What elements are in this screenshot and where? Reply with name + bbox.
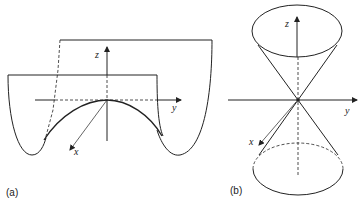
back-plane-hidden-edge [45, 40, 60, 140]
origin-point [296, 98, 300, 102]
x-axis-label-b: x [248, 136, 254, 147]
panel-a [8, 40, 212, 155]
panel-b [228, 5, 357, 195]
front-plane-left-curve [8, 75, 46, 155]
x-axis-b [259, 102, 296, 145]
bottom-ellipse-back [253, 143, 343, 169]
figure: z y x (a) z y x (b) [0, 0, 364, 203]
caption-b: (b) [230, 185, 242, 196]
x-axis [70, 100, 107, 150]
z-axis-label-a: z [94, 49, 99, 60]
caption-a: (a) [6, 187, 18, 198]
saddle-curve [44, 100, 162, 140]
front-plane-right-edge [157, 75, 163, 136]
y-axis-label-b: y [344, 105, 350, 116]
y-axis-label-a: y [171, 102, 177, 113]
x-axis-label-a: x [73, 146, 79, 157]
back-plane-right-curve [157, 40, 212, 155]
z-axis-label-b: z [284, 18, 289, 29]
